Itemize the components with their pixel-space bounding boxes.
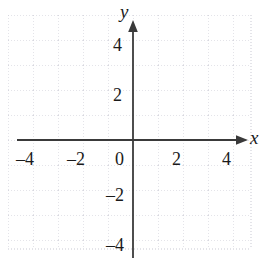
y-axis-label: y [120,2,128,21]
y-tick-label-4: 4 [113,36,122,54]
x-tick-label-4: 4 [222,150,231,168]
origin-label: 0 [115,150,124,168]
x-tick-label-2: 2 [172,150,181,168]
x-tick-label-minus4: –4 [16,150,34,168]
coordinate-grid-figure: y x –4 –2 0 2 4 4 2 –2 –4 [0,0,268,261]
y-tick-label-minus2: –2 [106,186,124,204]
coordinate-plane-svg [0,0,268,261]
y-tick-label-minus4: –4 [106,236,124,254]
grid-lines [8,15,251,249]
y-tick-label-2: 2 [113,86,122,104]
x-tick-label-minus2: –2 [67,150,85,168]
x-axis-label: x [250,128,258,147]
